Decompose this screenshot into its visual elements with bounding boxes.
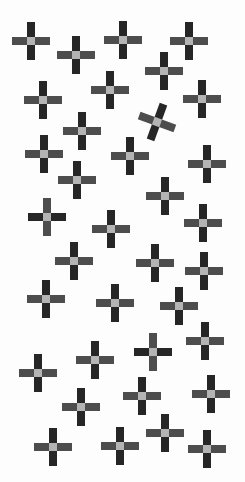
cross-center-square bbox=[73, 176, 81, 184]
cross-icon bbox=[92, 210, 130, 248]
cross-icon bbox=[57, 36, 95, 74]
cross-icon bbox=[12, 22, 50, 60]
cross-icon bbox=[19, 354, 57, 392]
cross-center-square bbox=[199, 219, 207, 227]
cross-icon bbox=[27, 280, 65, 318]
cross-center-square bbox=[161, 192, 169, 200]
cross-center-square bbox=[119, 36, 127, 44]
cross-icon bbox=[186, 322, 224, 360]
cross-icon bbox=[76, 341, 114, 379]
cross-center-square bbox=[111, 299, 119, 307]
cross-center-square bbox=[77, 403, 85, 411]
cross-center-square bbox=[151, 259, 159, 267]
cross-icon bbox=[185, 252, 223, 290]
cross-center-square bbox=[175, 302, 183, 310]
cross-icon bbox=[96, 284, 134, 322]
cross-icon bbox=[160, 287, 198, 325]
cross-center-square bbox=[160, 67, 168, 75]
cross-center-square bbox=[198, 95, 206, 103]
cross-icon bbox=[55, 242, 93, 280]
cross-center-square bbox=[40, 150, 48, 158]
cross-icon bbox=[58, 161, 96, 199]
cross-icon bbox=[188, 430, 226, 468]
cross-center-square bbox=[42, 295, 50, 303]
cross-icon bbox=[104, 21, 142, 59]
cross-icon bbox=[63, 112, 101, 150]
cross-icon bbox=[101, 427, 139, 465]
cross-center-square bbox=[106, 86, 114, 94]
cross-icon bbox=[145, 52, 183, 90]
cross-center-square bbox=[161, 429, 169, 437]
cross-icon-inverted bbox=[28, 198, 66, 236]
cross-center-square bbox=[39, 96, 47, 104]
cross-center-square bbox=[116, 442, 124, 450]
cross-icon bbox=[34, 428, 72, 466]
cross-icon-inverted bbox=[134, 333, 172, 371]
cross-center-square bbox=[185, 37, 193, 45]
cross-center-square bbox=[138, 392, 146, 400]
cross-center-square bbox=[149, 348, 157, 356]
cross-icon bbox=[192, 375, 230, 413]
cross-icon bbox=[123, 377, 161, 415]
cross-center-square bbox=[70, 257, 78, 265]
cross-icon bbox=[146, 177, 184, 215]
cross-icon bbox=[62, 388, 100, 426]
cross-center-square bbox=[107, 225, 115, 233]
cross-icon bbox=[111, 137, 149, 175]
cross-center-square bbox=[43, 213, 51, 221]
cross-center-square bbox=[49, 443, 57, 451]
cross-center-square bbox=[201, 337, 209, 345]
cross-icon bbox=[188, 145, 226, 183]
cross-center-square bbox=[91, 356, 99, 364]
cross-center-square bbox=[126, 152, 134, 160]
cross-center-square bbox=[34, 369, 42, 377]
cross-center-square bbox=[200, 267, 208, 275]
cross-center-square bbox=[72, 51, 80, 59]
cross-icon bbox=[146, 414, 184, 452]
cross-center-square bbox=[203, 445, 211, 453]
cross-icon bbox=[184, 204, 222, 242]
cross-icon bbox=[24, 81, 62, 119]
cross-icon bbox=[91, 71, 129, 109]
cross-center-square bbox=[203, 160, 211, 168]
cross-center-square bbox=[27, 37, 35, 45]
cross-icon bbox=[183, 80, 221, 118]
cross-field-canvas bbox=[0, 0, 245, 482]
cross-icon bbox=[136, 244, 174, 282]
cross-center-square bbox=[78, 127, 86, 135]
cross-center-square bbox=[207, 390, 215, 398]
